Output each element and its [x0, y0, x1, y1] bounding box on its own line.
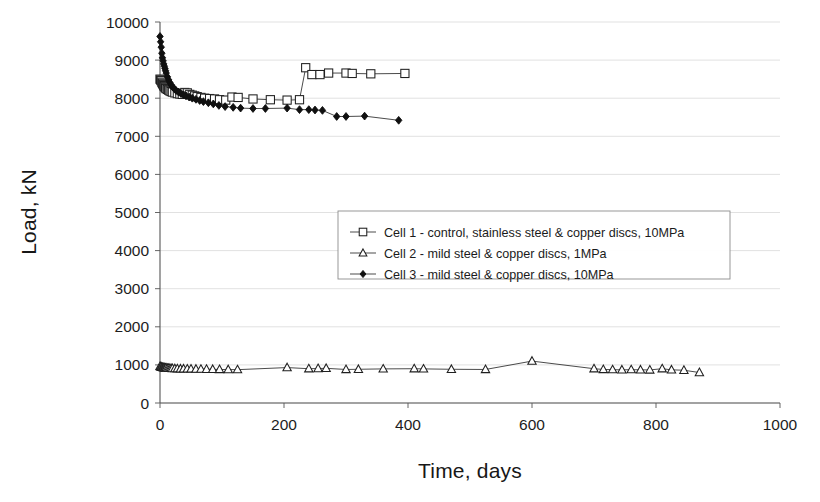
x-tick-label: 800 [643, 416, 669, 433]
x-tick-label: 200 [271, 416, 297, 433]
x-tick-label: 0 [156, 416, 165, 433]
y-tick-label: 4000 [115, 242, 150, 259]
legend-entry-1[interactable]: Cell 1 - control, stainless steel & copp… [350, 226, 684, 240]
legend-entry-2[interactable]: Cell 2 - mild steel & copper discs, 1MPa [350, 247, 607, 261]
x-axis-title: Time, days [418, 459, 522, 482]
y-tick-label: 8000 [115, 90, 150, 107]
y-axis-title: Load, kN [17, 169, 40, 255]
data-point-open-square [359, 228, 367, 236]
y-tick-label: 10000 [106, 14, 149, 31]
data-point-open-square [367, 70, 375, 78]
data-point-open-square [234, 93, 242, 101]
legend-entry-3[interactable]: Cell 3 - mild steel & copper discs, 10MP… [350, 268, 614, 282]
y-tick-label: 6000 [115, 166, 150, 183]
data-point-open-square [401, 69, 409, 77]
data-point-open-square [325, 69, 333, 77]
data-point-open-square [266, 96, 274, 104]
data-point-open-square [316, 70, 324, 78]
legend-label: Cell 3 - mild steel & copper discs, 10MP… [384, 268, 614, 282]
chart-legend: Cell 1 - control, stainless steel & copp… [338, 211, 730, 282]
legend-label: Cell 1 - control, stainless steel & copp… [384, 226, 684, 240]
legend-label: Cell 2 - mild steel & copper discs, 1MPa [384, 247, 607, 261]
data-point-open-square [348, 69, 356, 77]
data-point-open-square [283, 96, 291, 104]
x-tick-label: 1000 [763, 416, 798, 433]
x-tick-label: 600 [519, 416, 545, 433]
y-tick-label: 2000 [115, 318, 150, 335]
y-tick-label: 7000 [115, 128, 150, 145]
load-vs-time-chart: 0100020003000400050006000700080009000100… [0, 0, 820, 502]
data-point-open-square [249, 95, 257, 103]
y-tick-label: 9000 [115, 52, 150, 69]
data-point-open-square [308, 70, 316, 78]
data-point-open-square [295, 96, 303, 104]
y-tick-label: 3000 [115, 280, 150, 297]
y-tick-label: 5000 [115, 204, 150, 221]
y-tick-label: 1000 [115, 356, 150, 373]
x-tick-label: 400 [395, 416, 421, 433]
y-tick-label: 0 [140, 395, 149, 412]
